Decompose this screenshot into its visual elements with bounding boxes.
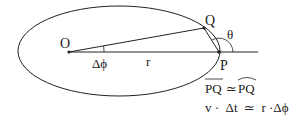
eq1-left: PQ — [205, 81, 222, 96]
label-delta-phi: Δϕ — [92, 56, 107, 71]
diagram-svg: O Q θ P Δϕ r PQ ≃ PQ v · Δt ≃ r ·Δϕ — [0, 0, 298, 120]
label-q: Q — [205, 13, 215, 28]
oq-line — [69, 28, 204, 52]
label-p: P — [220, 58, 228, 73]
eq1-arc-mark — [238, 78, 256, 81]
eq1-right: PQ — [238, 81, 255, 96]
delta-phi-arc — [104, 46, 105, 52]
label-theta: θ — [227, 27, 233, 42]
orbit-diagram: O Q θ P Δϕ r PQ ≃ PQ v · Δt ≃ r ·Δϕ — [0, 0, 298, 120]
eq2: v · Δt ≃ r ·Δϕ — [205, 100, 289, 115]
orbit-ellipse — [18, 6, 220, 96]
label-origin: O — [60, 36, 70, 51]
label-radius: r — [146, 54, 151, 69]
point-p — [217, 50, 221, 54]
eq1-op: ≃ — [226, 81, 237, 96]
